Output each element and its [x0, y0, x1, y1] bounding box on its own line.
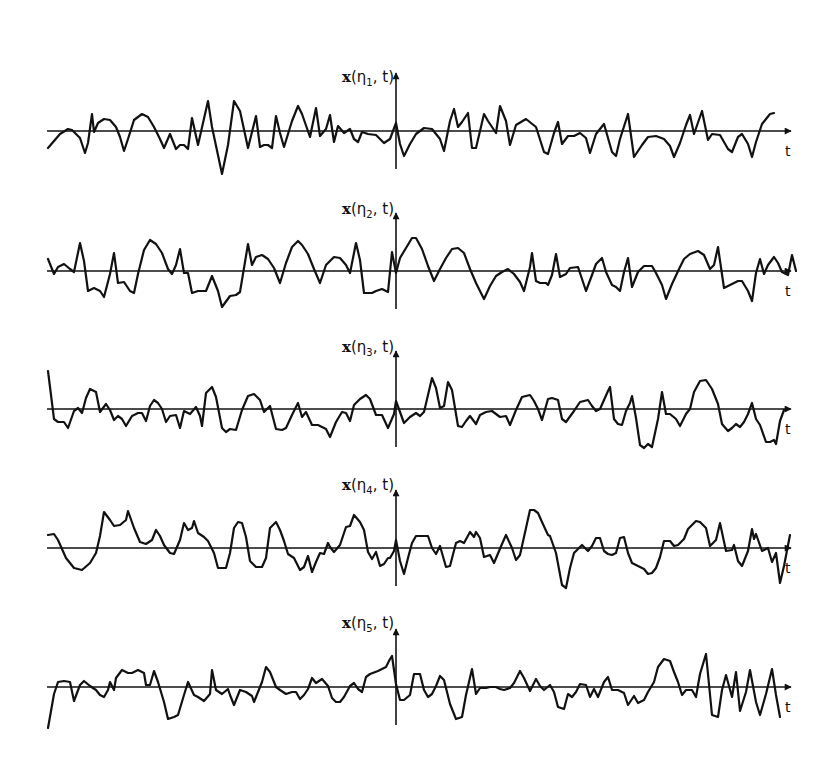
trace-label-5: x(η5, t) — [342, 614, 394, 634]
sample-waveform — [48, 101, 774, 174]
sample-waveform — [48, 654, 780, 728]
time-axis-label-3: t — [785, 421, 791, 437]
trace-label-1: x(η1, t) — [342, 68, 394, 88]
trace-2 — [47, 213, 796, 309]
trace-3 — [47, 351, 791, 448]
sample-functions-plot — [0, 0, 836, 769]
traces-layer — [47, 73, 796, 728]
trace-4 — [47, 490, 791, 588]
time-axis-label-2: t — [785, 283, 791, 299]
trace-label-4: x(η4, t) — [342, 476, 394, 496]
label-symbol: x — [342, 200, 351, 218]
label-symbol: x — [342, 68, 351, 86]
sample-waveform — [48, 238, 796, 307]
trace-1 — [47, 73, 791, 174]
trace-5 — [47, 629, 791, 728]
time-axis-label-1: t — [785, 143, 791, 159]
random-process-figure: x(η1, t) x(η2, t) x(η3, t) x(η4, t) x(η5… — [0, 0, 836, 769]
sample-waveform — [48, 510, 790, 588]
time-axis-label-5: t — [785, 699, 791, 715]
label-symbol: x — [342, 476, 351, 494]
trace-label-2: x(η2, t) — [342, 200, 394, 220]
time-axis-label-4: t — [785, 560, 791, 576]
label-symbol: x — [342, 614, 351, 632]
trace-label-3: x(η3, t) — [342, 338, 394, 358]
label-symbol: x — [342, 338, 351, 356]
